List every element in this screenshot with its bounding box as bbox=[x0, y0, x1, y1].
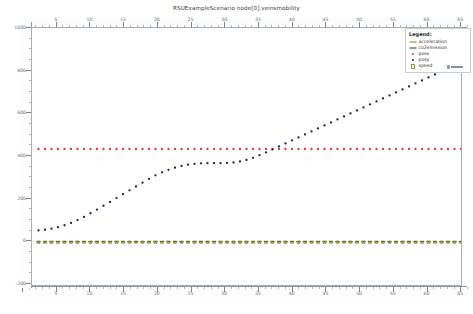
chart-canvas bbox=[32, 28, 461, 285]
axis-tick bbox=[312, 287, 313, 289]
axis-tick bbox=[379, 287, 380, 289]
legend-item-label: posy bbox=[419, 57, 430, 63]
corner-bar-icon bbox=[451, 66, 463, 68]
axis-tick bbox=[204, 287, 205, 289]
series-speed bbox=[37, 241, 461, 243]
axis-tick bbox=[170, 287, 171, 289]
legend-marker-icon bbox=[409, 58, 416, 63]
axis-tick-label: 30 bbox=[221, 291, 227, 296]
axis-tick bbox=[76, 287, 77, 289]
axis-tick bbox=[164, 287, 165, 289]
legend-marker-icon bbox=[409, 64, 416, 69]
axis-tick bbox=[211, 287, 212, 289]
axis-tick bbox=[103, 287, 104, 289]
axis-tick bbox=[245, 287, 246, 289]
axis-tick-label: 55 bbox=[390, 291, 396, 296]
axis-tick bbox=[130, 287, 131, 289]
axis-tick-label: 800 bbox=[17, 67, 26, 72]
axis-tick-label: 50 bbox=[356, 17, 362, 22]
legend-marker-icon bbox=[409, 51, 416, 56]
axis-tick bbox=[339, 287, 340, 289]
axis-tick bbox=[413, 287, 414, 289]
x-axis-ruler[interactable]: 5101520253035404550556065 bbox=[22, 286, 467, 298]
axis-tick bbox=[447, 287, 448, 289]
axis-tick-label: 25 bbox=[188, 291, 194, 296]
plot-area[interactable] bbox=[31, 27, 462, 286]
axis-tick bbox=[110, 287, 111, 289]
axis-tick bbox=[285, 287, 286, 289]
axis-tick bbox=[251, 287, 252, 289]
axis-tick bbox=[96, 287, 97, 289]
axis-tick bbox=[319, 287, 320, 289]
axis-tick-label: 50 bbox=[356, 291, 362, 296]
axis-tick-label: 600 bbox=[17, 110, 26, 115]
axis-tick-label: 15 bbox=[120, 17, 126, 22]
axis-tick bbox=[278, 287, 279, 289]
axis-tick-label: 60 bbox=[424, 17, 430, 22]
axis-tick bbox=[69, 287, 70, 289]
chart-root: RSUExampleScenario node[0].veinsmobility… bbox=[0, 0, 473, 314]
scrollbar-corner-widget[interactable] bbox=[447, 63, 467, 70]
axis-tick-label: 10 bbox=[86, 291, 92, 296]
axis-tick-label: 1000 bbox=[14, 25, 26, 30]
axis-tick-label: 20 bbox=[154, 17, 160, 22]
axis-tick bbox=[42, 287, 43, 289]
axis-tick-label: 65 bbox=[457, 17, 463, 22]
axis-tick bbox=[366, 287, 367, 289]
legend-item-label: speed bbox=[419, 63, 433, 69]
axis-tick-label: 60 bbox=[424, 291, 430, 296]
axis-tick-label: 25 bbox=[188, 17, 194, 22]
axis-tick-label: 200 bbox=[17, 195, 26, 200]
axis-tick bbox=[454, 287, 455, 289]
axis-tick bbox=[332, 287, 333, 289]
axis-tick-label: 45 bbox=[322, 17, 328, 22]
axis-tick bbox=[184, 287, 185, 289]
axis-tick bbox=[231, 287, 232, 289]
axis-tick bbox=[467, 25, 468, 27]
axis-tick-label: -200 bbox=[16, 281, 26, 286]
axis-tick bbox=[406, 287, 407, 289]
axis-tick bbox=[150, 287, 151, 289]
corner-square-icon bbox=[447, 65, 450, 69]
axis-tick-label: 20 bbox=[154, 291, 160, 296]
axis-tick bbox=[35, 287, 36, 289]
axis-tick-label: 400 bbox=[17, 153, 26, 158]
series-posx bbox=[37, 148, 461, 150]
axis-tick bbox=[177, 287, 178, 289]
axis-tick bbox=[218, 287, 219, 289]
legend-title: Legend: bbox=[409, 31, 467, 37]
axis-tick bbox=[352, 287, 353, 289]
axis-tick bbox=[137, 287, 138, 289]
axis-tick bbox=[62, 287, 63, 289]
axis-tick-label: 30 bbox=[221, 17, 227, 22]
axis-tick bbox=[386, 287, 387, 289]
axis-tick-label: 0 bbox=[23, 238, 26, 243]
axis-tick-label: 45 bbox=[322, 291, 328, 296]
axis-tick bbox=[238, 287, 239, 289]
legend-marker-icon bbox=[409, 45, 416, 50]
axis-tick bbox=[116, 287, 117, 289]
legend-item-label: posx bbox=[419, 51, 430, 57]
legend-item-label: acceleration bbox=[419, 39, 447, 45]
axis-tick bbox=[400, 287, 401, 289]
legend-item-label: co2emission bbox=[419, 45, 448, 51]
axis-tick-label: 5 bbox=[54, 291, 57, 296]
axis-tick bbox=[373, 287, 374, 289]
axis-tick bbox=[305, 287, 306, 289]
axis-tick bbox=[143, 287, 144, 289]
axis-tick bbox=[433, 287, 434, 289]
legend-marker-icon bbox=[409, 39, 416, 44]
axis-tick-label: 5 bbox=[54, 17, 57, 22]
axis-tick bbox=[420, 287, 421, 289]
axis-tick bbox=[49, 287, 50, 289]
axis-tick-label: 65 bbox=[457, 291, 463, 296]
axis-tick bbox=[271, 287, 272, 289]
axis-tick-label: 55 bbox=[390, 17, 396, 22]
axis-tick-label: 35 bbox=[255, 291, 261, 296]
axis-tick bbox=[83, 287, 84, 289]
axis-tick bbox=[298, 287, 299, 289]
axis-tick bbox=[346, 287, 347, 289]
axis-tick-label: 40 bbox=[289, 17, 295, 22]
axis-tick-label: 10 bbox=[86, 17, 92, 22]
axis-tick-label: 15 bbox=[120, 291, 126, 296]
